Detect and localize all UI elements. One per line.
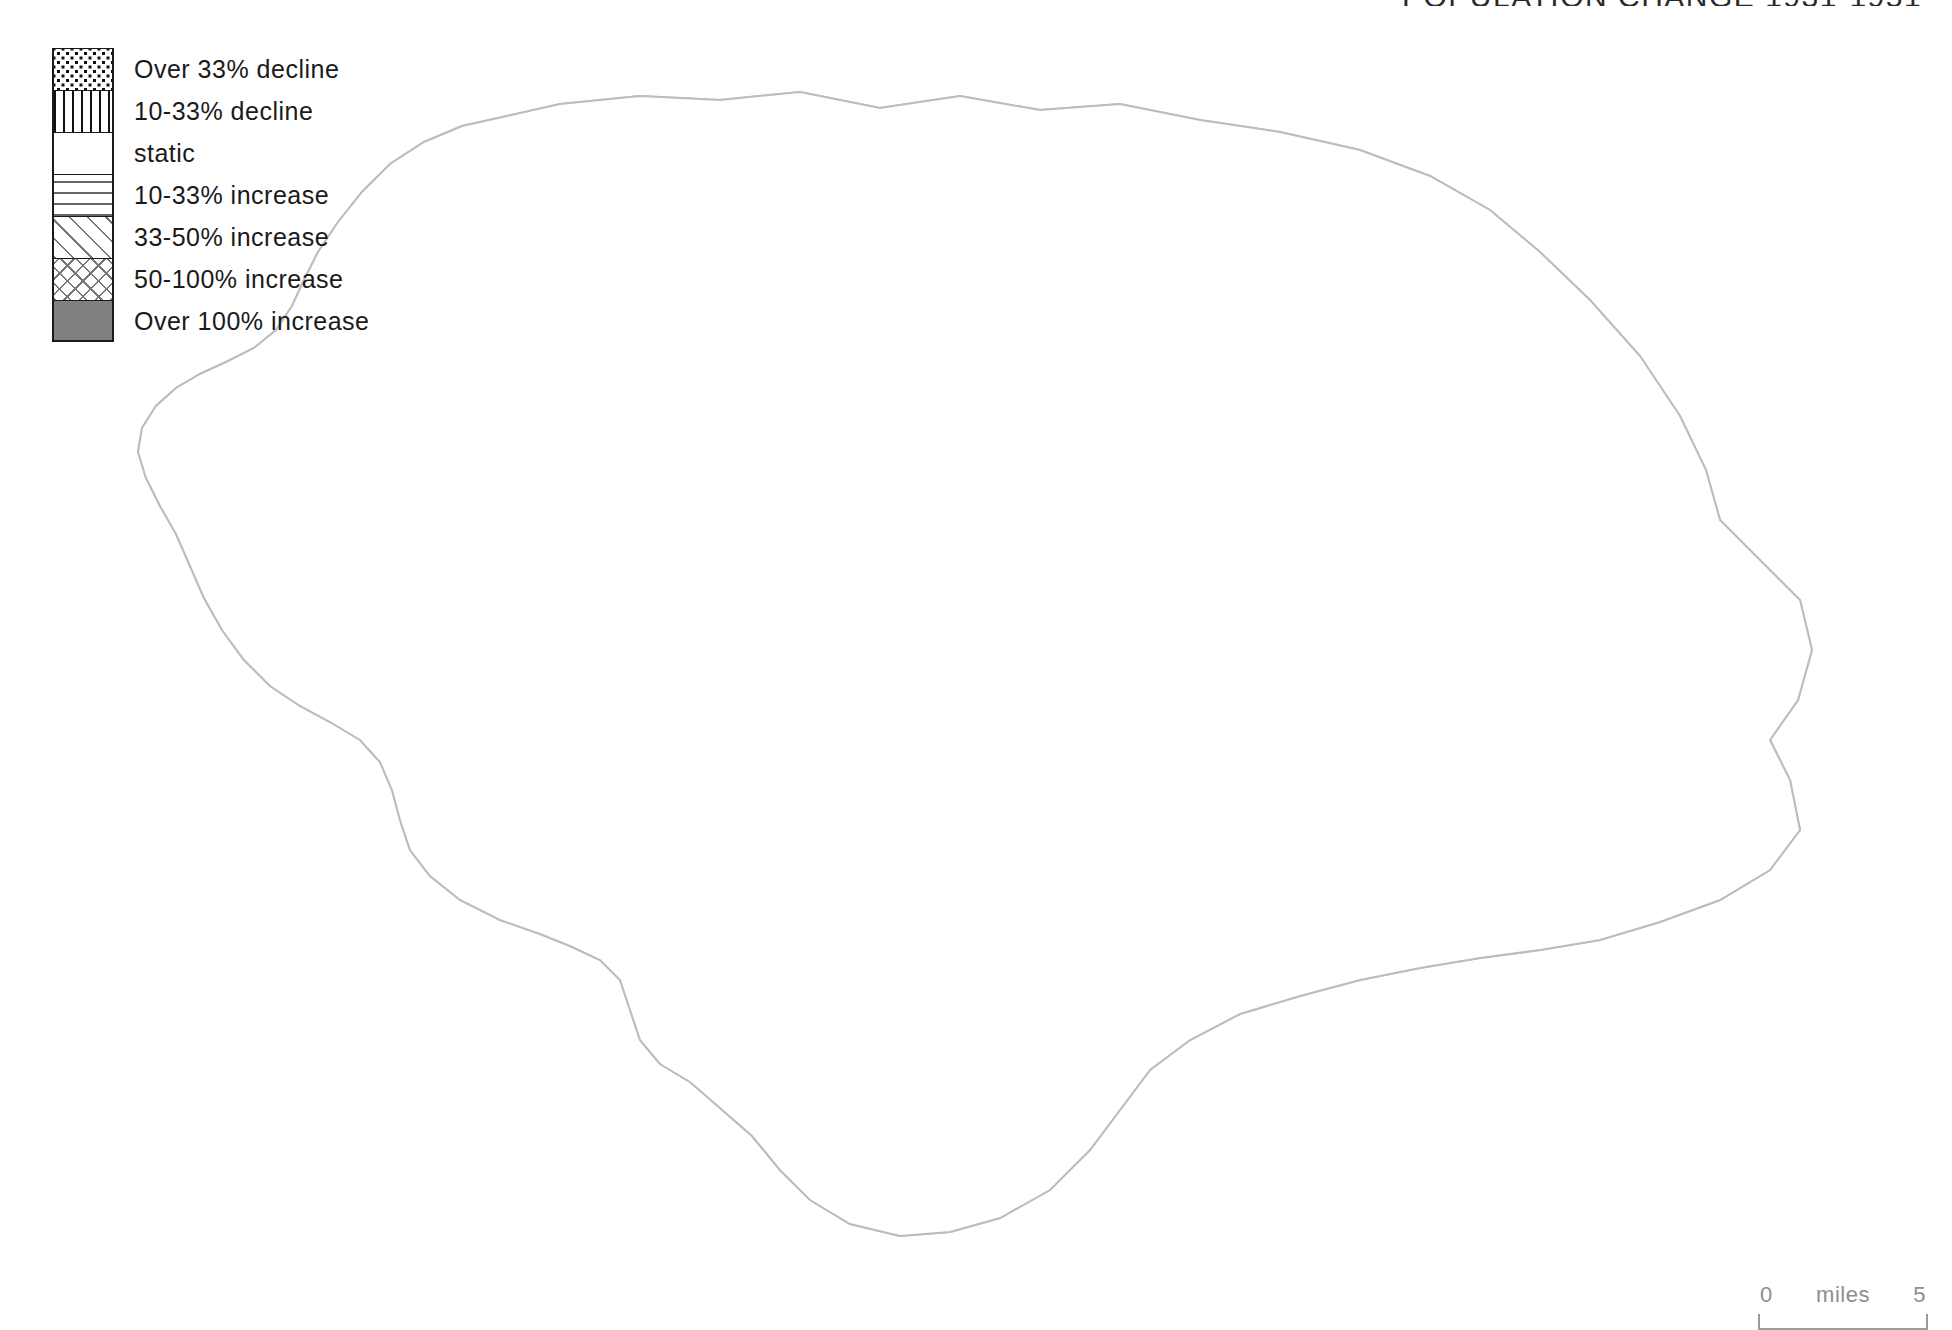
legend-item-33-50-increase[interactable]: 33-50% increase bbox=[52, 216, 370, 258]
legend-label-over-100-increase: Over 100% increase bbox=[134, 307, 370, 336]
legend-swatch-10-33-increase bbox=[52, 174, 114, 216]
legend-item-10-33-increase[interactable]: 10-33% increase bbox=[52, 174, 370, 216]
scale-start-label: 0 bbox=[1760, 1282, 1773, 1308]
legend-swatch-over-100-increase bbox=[52, 300, 114, 342]
legend-label-static: static bbox=[134, 139, 195, 168]
legend-swatch-10-33-decline bbox=[52, 90, 114, 132]
legend-label-10-33-decline: 10-33% decline bbox=[134, 97, 313, 126]
legend-swatch-static bbox=[52, 132, 114, 174]
legend-label-33-50-increase: 33-50% increase bbox=[134, 223, 329, 252]
legend-label-10-33-increase: 10-33% increase bbox=[134, 181, 329, 210]
legend-swatch-33-50-increase bbox=[52, 216, 114, 258]
legend-item-50-100-increase[interactable]: 50-100% increase bbox=[52, 258, 370, 300]
legend-item-over-100-increase[interactable]: Over 100% increase bbox=[52, 300, 370, 342]
map-legend: Over 33% decline 10-33% decline static 1… bbox=[52, 48, 370, 342]
coastline-outline bbox=[138, 92, 1812, 1236]
legend-item-static[interactable]: static bbox=[52, 132, 370, 174]
scale-end-label: 5 bbox=[1913, 1282, 1926, 1308]
legend-item-10-33-decline[interactable]: 10-33% decline bbox=[52, 90, 370, 132]
scale-bar: 0 miles 5 bbox=[1758, 1282, 1928, 1330]
scale-labels: 0 miles 5 bbox=[1758, 1282, 1928, 1308]
scale-rule bbox=[1758, 1314, 1928, 1330]
scale-unit-label: miles bbox=[1816, 1282, 1870, 1308]
legend-item-over-33-decline[interactable]: Over 33% decline bbox=[52, 48, 370, 90]
legend-label-over-33-decline: Over 33% decline bbox=[134, 55, 339, 84]
legend-swatch-50-100-increase bbox=[52, 258, 114, 300]
legend-swatch-over-33-decline bbox=[52, 48, 114, 90]
legend-label-50-100-increase: 50-100% increase bbox=[134, 265, 344, 294]
